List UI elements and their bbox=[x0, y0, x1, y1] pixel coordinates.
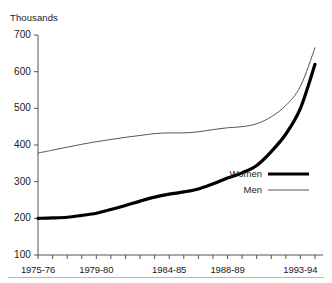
y-axis-tick-label: 500 bbox=[5, 102, 31, 113]
y-axis-tick-label: 100 bbox=[5, 249, 31, 260]
legend-label-women: Women bbox=[202, 168, 262, 179]
x-axis-tick-label: 1988-89 bbox=[198, 264, 258, 275]
y-axis-tick-label: 200 bbox=[5, 212, 31, 223]
y-axis-tick-label: 400 bbox=[5, 139, 31, 150]
x-axis-tick-label: 1975-76 bbox=[8, 264, 68, 275]
legend-swatches bbox=[268, 174, 309, 190]
data-series-lines bbox=[38, 48, 315, 219]
x-axis-ticks bbox=[38, 255, 315, 259]
x-axis-tick-label: 1993-94 bbox=[270, 264, 330, 275]
axis-lines bbox=[38, 35, 323, 255]
x-axis-tick-label: 1979-80 bbox=[66, 264, 126, 275]
chart-figure: Thousands 7006005004003002001001975-7619… bbox=[0, 0, 332, 283]
legend-label-men: Men bbox=[202, 184, 262, 195]
x-axis-tick-label: 1984-85 bbox=[139, 264, 199, 275]
y-axis-tick-label: 700 bbox=[5, 29, 31, 40]
y-axis-tick-label: 300 bbox=[5, 176, 31, 187]
chart-plot-area bbox=[0, 0, 332, 283]
y-axis-tick-label: 600 bbox=[5, 66, 31, 77]
y-axis-ticks bbox=[34, 35, 38, 255]
bottom-divider-rule bbox=[8, 277, 324, 278]
